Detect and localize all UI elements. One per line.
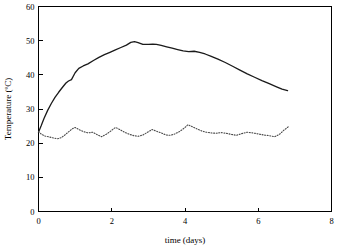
x-tick-label: 2 (110, 216, 114, 226)
y-tick-label: 0 (30, 207, 34, 217)
x-axis-title: time (days) (165, 235, 206, 245)
temperature-line-chart: 02468 0102030405060 time (days) Temperat… (0, 0, 338, 250)
chart-figure: 02468 0102030405060 time (days) Temperat… (0, 0, 338, 250)
y-tick-label: 30 (26, 104, 35, 114)
y-tick-label: 20 (26, 138, 35, 148)
y-axis-title: Temperature (ºC) (3, 78, 13, 140)
y-tick-label: 40 (26, 70, 35, 80)
x-tick-label: 6 (256, 216, 260, 226)
chart-background (0, 0, 338, 250)
y-tick-label: 60 (26, 2, 35, 12)
y-tick-label: 10 (26, 172, 35, 182)
x-tick-label: 8 (329, 216, 333, 226)
y-tick-label: 50 (26, 36, 35, 46)
x-tick-label: 0 (36, 216, 40, 226)
